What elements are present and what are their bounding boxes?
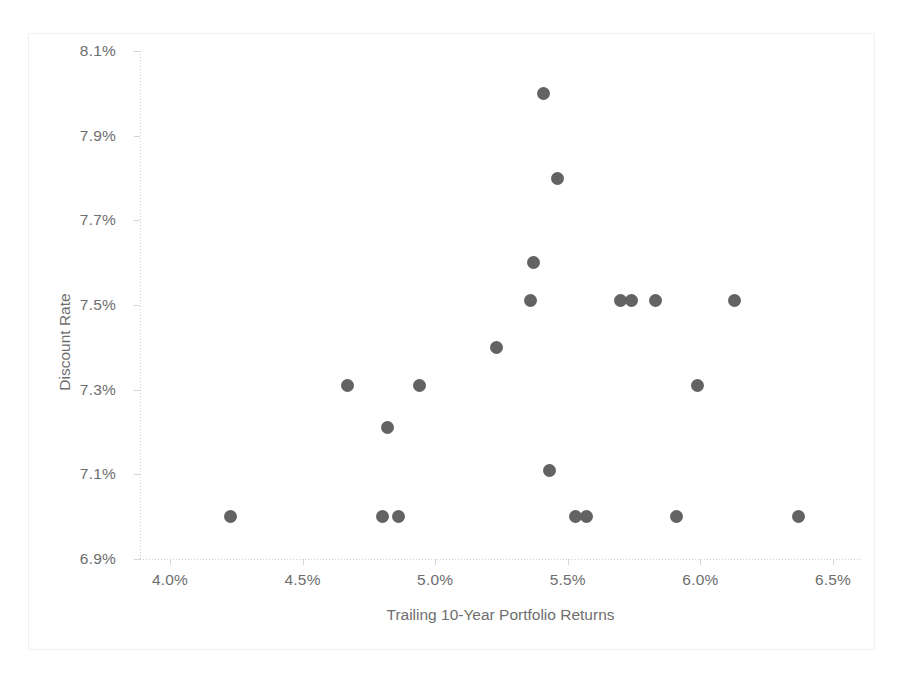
y-tick-label: 8.1% xyxy=(46,43,116,59)
y-tick-mark xyxy=(134,51,140,52)
y-tick-mark xyxy=(134,390,140,391)
scatter-chart: 8.1%7.9%7.7%7.5%7.3%7.1%6.9% 4.0%4.5%5.0… xyxy=(28,33,875,650)
x-tick-mark xyxy=(568,559,569,565)
x-tick-label: 5.5% xyxy=(528,572,608,588)
data-point xyxy=(490,341,503,354)
y-tick-mark xyxy=(134,474,140,475)
data-point xyxy=(649,294,662,307)
x-tick-label: 6.0% xyxy=(660,572,740,588)
x-axis-line xyxy=(140,559,861,560)
y-tick-label: 7.7% xyxy=(46,212,116,228)
plot-area xyxy=(140,51,860,559)
y-tick-mark xyxy=(134,305,140,306)
y-tick-label: 6.9% xyxy=(46,551,116,567)
data-point xyxy=(580,510,593,523)
y-axis-line xyxy=(140,51,141,560)
y-tick-mark xyxy=(134,220,140,221)
x-tick-mark xyxy=(435,559,436,565)
data-point xyxy=(527,256,540,269)
data-point xyxy=(413,379,426,392)
x-tick-mark xyxy=(700,559,701,565)
y-axis-title: Discount Rate xyxy=(56,242,74,442)
x-tick-label: 4.0% xyxy=(130,572,210,588)
y-tick-label: 7.1% xyxy=(46,466,116,482)
x-tick-mark xyxy=(833,559,834,565)
data-point xyxy=(376,510,389,523)
y-tick-mark xyxy=(134,559,140,560)
x-tick-label: 5.0% xyxy=(395,572,475,588)
x-tick-label: 6.5% xyxy=(793,572,873,588)
data-point xyxy=(551,172,564,185)
data-point xyxy=(341,379,354,392)
x-tick-mark xyxy=(170,559,171,565)
x-tick-mark xyxy=(303,559,304,565)
data-point xyxy=(392,510,405,523)
y-tick-label: 7.9% xyxy=(46,128,116,144)
data-point xyxy=(543,464,556,477)
x-tick-label: 4.5% xyxy=(263,572,343,588)
x-axis-title: Trailing 10-Year Portfolio Returns xyxy=(140,606,861,624)
y-tick-mark xyxy=(134,136,140,137)
